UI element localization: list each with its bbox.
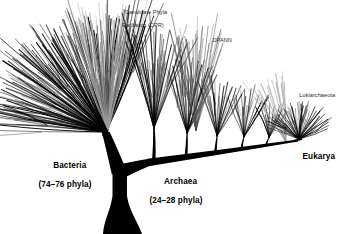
tree-of-life-figure: Bacteria (74–76 phyla) Archaea (24–28 ph… — [0, 0, 340, 234]
tree-diagram-svg — [0, 0, 340, 234]
